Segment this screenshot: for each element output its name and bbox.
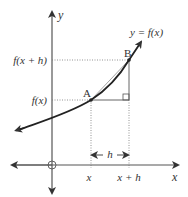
right-angle-marker [123,94,129,100]
fx-label: f(x) [32,94,48,107]
curve-left-arrow [16,128,24,131]
fxh-label: f(x + h) [13,54,47,67]
point-b-label: B [124,47,131,59]
xh-tick-label: x + h [116,171,141,183]
curve-label: y = f(x) [129,26,163,39]
function-diagram: y x y = f(x) A B f(x + h) f(x) x x + h h [0,0,188,197]
point-a-label: A [83,87,91,99]
x-axis-label: x [171,170,178,184]
x-tick-label: x [86,171,92,183]
h-label: h [107,148,113,160]
y-axis-label: y [57,8,64,22]
